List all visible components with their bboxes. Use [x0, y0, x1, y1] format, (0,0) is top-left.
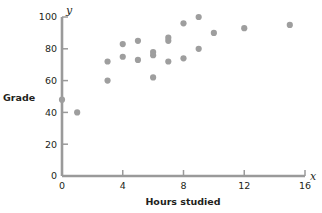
y-axis-ticks: 020406080100	[39, 11, 68, 181]
data-point	[211, 30, 217, 36]
y-tick-label: 80	[45, 43, 57, 54]
data-point	[165, 58, 171, 64]
y-axis-title: Grade	[3, 92, 35, 103]
data-point	[135, 57, 141, 63]
x-tick-label: 0	[59, 180, 65, 191]
plot-canvas: 020406080100 0481216 y x Grade Hours stu…	[0, 0, 322, 213]
y-tick-label: 60	[45, 75, 57, 86]
data-point	[165, 35, 171, 41]
y-tick-label: 0	[51, 170, 57, 181]
scatter-plot-figure: 020406080100 0481216 y x Grade Hours stu…	[0, 0, 322, 213]
y-tick-label: 40	[45, 107, 57, 118]
data-point	[150, 49, 156, 55]
data-point	[135, 38, 141, 44]
data-point	[59, 97, 65, 103]
data-point	[104, 78, 110, 84]
data-point	[196, 46, 202, 52]
x-axis-variable-label: x	[310, 170, 317, 183]
data-point	[196, 14, 202, 20]
data-point	[241, 25, 247, 31]
data-point	[120, 54, 126, 60]
data-point	[104, 58, 110, 64]
data-point	[120, 41, 126, 47]
data-point	[74, 109, 80, 115]
x-axis-title: Hours studied	[145, 196, 220, 207]
x-tick-label: 12	[238, 180, 250, 191]
x-axis-ticks: 0481216	[59, 170, 311, 191]
data-point	[180, 55, 186, 61]
y-tick-label: 20	[45, 139, 57, 150]
data-point	[150, 74, 156, 80]
x-tick-label: 8	[180, 180, 186, 191]
data-point	[287, 22, 293, 28]
y-axis-variable-label: y	[65, 4, 73, 17]
data-point	[180, 20, 186, 26]
y-tick-label: 100	[39, 11, 57, 22]
x-tick-label: 4	[120, 180, 126, 191]
data-points-group	[59, 14, 293, 116]
